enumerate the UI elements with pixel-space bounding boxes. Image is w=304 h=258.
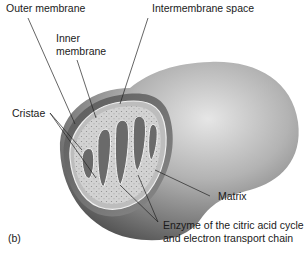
label-cristae: Cristae bbox=[12, 107, 45, 120]
label-intermembrane-space: Intermembrane space bbox=[152, 2, 254, 15]
label-inner-membrane-line1: Inner bbox=[56, 32, 106, 45]
label-enzyme-line2: and electron transport chain bbox=[163, 232, 304, 245]
label-enzyme: Enzyme of the citric acid cycle and elec… bbox=[163, 219, 304, 244]
label-inner-membrane-line2: membrane bbox=[56, 45, 106, 58]
label-outer-membrane: Outer membrane bbox=[6, 2, 85, 15]
label-enzyme-line1: Enzyme of the citric acid cycle bbox=[163, 219, 304, 232]
label-matrix: Matrix bbox=[218, 190, 247, 203]
panel-label: (b) bbox=[8, 232, 21, 245]
label-inner-membrane: Inner membrane bbox=[56, 32, 106, 57]
